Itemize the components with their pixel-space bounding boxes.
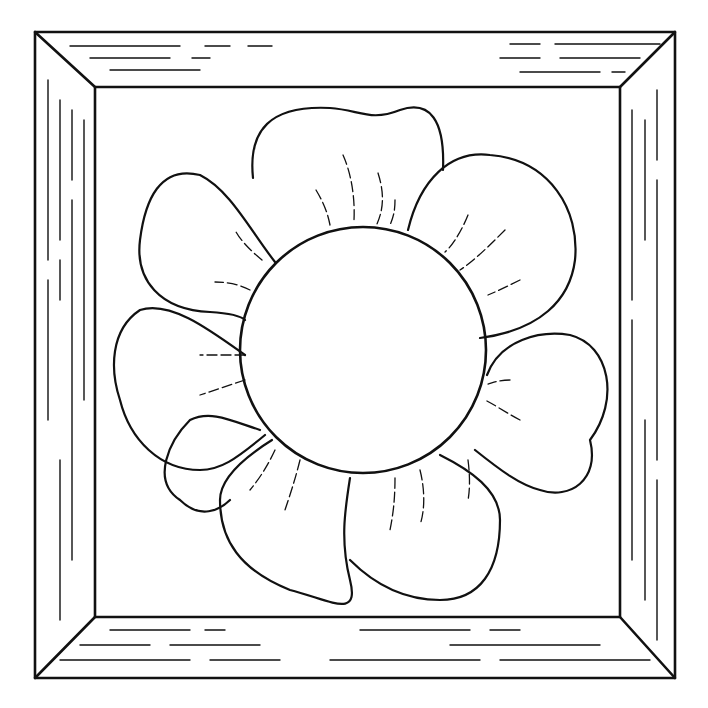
petal-lower-left	[165, 416, 260, 512]
flower-center	[240, 227, 486, 473]
flower-petals	[114, 108, 607, 604]
frame-corner-miter	[35, 32, 95, 87]
petal-upper-left	[139, 173, 275, 320]
petal-right	[475, 334, 607, 493]
frame-corner-miter	[35, 617, 95, 678]
frame-corner-miter	[620, 32, 675, 87]
petal-bottom	[220, 440, 352, 604]
petal-upper-right	[408, 154, 576, 338]
coloring-page	[0, 0, 708, 708]
petal-lower-right	[350, 455, 500, 600]
frame-corner-miter	[620, 617, 675, 678]
wood-grain-lines	[48, 44, 660, 660]
frame-outer-border	[35, 32, 675, 678]
frame-inner-border	[95, 87, 620, 617]
flower-frame-drawing	[0, 0, 708, 708]
petal-top	[252, 108, 443, 179]
wooden-frame	[35, 32, 675, 678]
